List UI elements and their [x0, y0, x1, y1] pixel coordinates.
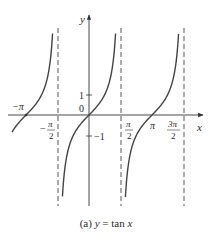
- x-tick-label-pi: π: [150, 120, 156, 131]
- y-tick-label-1: 1: [79, 90, 84, 101]
- tick-minus-sign: −: [40, 123, 46, 134]
- tick-numerator: π: [48, 119, 53, 129]
- x-tick-label-half-pi: π 2: [125, 119, 133, 141]
- x-axis-label: x: [196, 121, 202, 133]
- caption-eq: = tan: [100, 217, 128, 229]
- y-tick-label-0: 0: [79, 103, 84, 114]
- tan-branch-1: [12, 33, 53, 132]
- x-tick-label-three-half-pi: 3π 2: [167, 119, 180, 141]
- tick-numerator: 3π: [167, 119, 178, 129]
- tick-numerator: π: [126, 119, 131, 129]
- tick-denominator: 2: [171, 131, 176, 141]
- x-tick-label-neg-pi: −π: [12, 101, 25, 112]
- y-axis-label: y: [79, 13, 85, 25]
- tan-graph: y x 1 0 −1 −π − π 2 π 2 π 3π 2: [0, 0, 212, 241]
- tick-denominator: 2: [49, 131, 54, 141]
- x-tick-label-neg-half-pi: − π 2: [40, 119, 55, 141]
- caption-x: x: [127, 217, 132, 229]
- zero-point-neg-pi: [25, 114, 28, 117]
- tan-branch-3: [125, 34, 178, 197]
- y-tick-label-neg1: −1: [94, 131, 105, 142]
- figure-caption: (a) y = tan x: [0, 217, 212, 229]
- caption-prefix: (a): [80, 217, 95, 229]
- tick-denominator: 2: [127, 131, 132, 141]
